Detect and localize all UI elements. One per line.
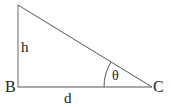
right-triangle-diagram: B C h d θ bbox=[0, 0, 172, 107]
side-label-h: h bbox=[21, 39, 29, 55]
vertex-label-c: C bbox=[153, 78, 164, 95]
hypotenuse bbox=[18, 5, 152, 87]
angle-arc-theta bbox=[104, 62, 111, 87]
angle-label-theta: θ bbox=[112, 68, 119, 83]
side-label-d: d bbox=[64, 90, 72, 106]
vertex-label-b: B bbox=[5, 78, 16, 95]
